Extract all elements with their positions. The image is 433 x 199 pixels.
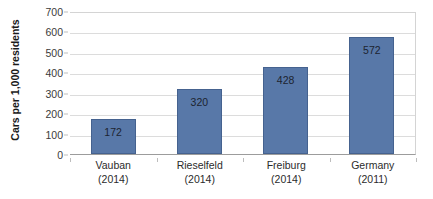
x-axis-category-label: Germany(2011) xyxy=(330,158,417,186)
x-tick-mark xyxy=(416,158,417,162)
y-tick-label: 300 xyxy=(45,88,63,100)
y-tick-mark xyxy=(64,93,68,94)
bar[interactable]: 172 xyxy=(91,119,136,154)
bars-group: 172320428572 xyxy=(70,13,415,154)
y-tick-mark xyxy=(64,155,68,156)
y-tick-mark xyxy=(64,134,68,135)
bar-slot: 172 xyxy=(70,13,156,154)
x-axis-category-label: Rieselfeld(2014) xyxy=(157,158,244,186)
bar-value-label: 172 xyxy=(92,126,135,138)
x-axis-category-label: Vauban(2014) xyxy=(70,158,157,186)
bar-chart: Cars per 1,000 residents 010020030040050… xyxy=(0,0,433,199)
y-axis-ticks: 0100200300400500600700 xyxy=(26,12,68,155)
x-category-year: (2014) xyxy=(243,172,330,186)
x-tick-mark xyxy=(70,158,71,162)
x-axis-labels: Vauban(2014)Rieselfeld(2014)Freiburg(201… xyxy=(70,158,416,198)
y-tick-label: 600 xyxy=(45,26,63,38)
y-tick-label: 500 xyxy=(45,47,63,59)
bar-slot: 572 xyxy=(329,13,415,154)
x-category-year: (2014) xyxy=(70,172,157,186)
y-tick-label: 200 xyxy=(45,108,63,120)
x-category-name: Rieselfeld xyxy=(177,159,223,171)
x-category-name: Vauban xyxy=(96,159,131,171)
bar[interactable]: 320 xyxy=(177,89,222,154)
y-tick-mark xyxy=(64,114,68,115)
x-tick-mark xyxy=(157,158,158,162)
y-tick-label: 400 xyxy=(45,67,63,79)
bar-value-label: 320 xyxy=(178,96,221,108)
x-category-name: Freiburg xyxy=(267,159,306,171)
y-tick-mark xyxy=(64,52,68,53)
bar-value-label: 572 xyxy=(350,44,393,56)
bar-value-label: 428 xyxy=(264,74,307,86)
bar-slot: 320 xyxy=(156,13,242,154)
bar-slot: 428 xyxy=(243,13,329,154)
y-tick-label: 100 xyxy=(45,129,63,141)
x-tick-mark xyxy=(243,158,244,162)
y-tick-mark xyxy=(64,12,68,13)
y-tick-label: 0 xyxy=(57,149,63,161)
y-tick-label: 700 xyxy=(45,6,63,18)
plot-area: 172320428572 xyxy=(70,12,416,155)
bar[interactable]: 428 xyxy=(263,67,308,154)
bar[interactable]: 572 xyxy=(349,37,394,154)
x-category-year: (2011) xyxy=(330,172,417,186)
y-tick-mark xyxy=(64,73,68,74)
y-axis-title-label: Cars per 1,000 residents xyxy=(9,19,21,140)
y-axis-title: Cars per 1,000 residents xyxy=(4,0,26,160)
y-tick-mark xyxy=(64,32,68,33)
x-tick-mark xyxy=(330,158,331,162)
x-axis-category-label: Freiburg(2014) xyxy=(243,158,330,186)
x-category-year: (2014) xyxy=(157,172,244,186)
x-category-name: Germany xyxy=(351,159,394,171)
